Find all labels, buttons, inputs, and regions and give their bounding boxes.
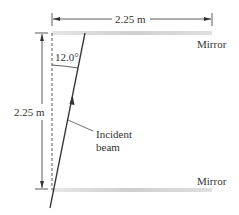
top-mirror <box>52 31 212 35</box>
beam-label-line2: beam <box>96 141 120 153</box>
top-width-label: 2.25 m <box>115 13 146 25</box>
angle-arc <box>52 65 78 68</box>
bottom-mirror-label: Mirror <box>197 175 226 187</box>
height-label: 2.25 m <box>14 106 45 118</box>
bottom-mirror <box>52 188 212 192</box>
beam-leader-line <box>68 120 93 131</box>
angle-label: 12.0° <box>55 51 79 63</box>
mirror-diagram: 2.25 m Mirror 12.0° 2.25 m Incident beam… <box>0 0 239 215</box>
top-mirror-label: Mirror <box>197 38 226 50</box>
beam-arrow-icon <box>70 95 75 105</box>
beam-label-line1: Incident <box>96 128 132 140</box>
